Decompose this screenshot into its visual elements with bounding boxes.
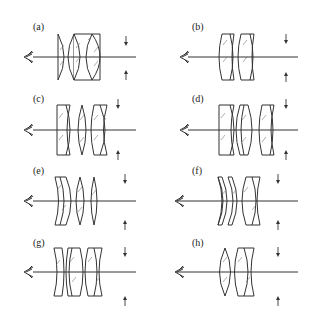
eye-icon: [24, 124, 33, 136]
panel-label-e: (e): [33, 165, 44, 177]
field-stop-arrow-up-icon: [276, 220, 280, 230]
panel-label-g: (g): [33, 237, 45, 249]
field-stop-arrow-up-icon: [124, 70, 128, 80]
eye-icon: [180, 51, 189, 63]
eye-icon: [180, 124, 189, 136]
eyepiece-diagram: (a) (b): [0, 0, 313, 321]
field-stop-arrow-down-icon: [124, 36, 128, 46]
panel-f: (f): [175, 165, 298, 230]
panel-label-f: (f): [192, 165, 202, 177]
field-stop-arrow-up-icon: [123, 296, 127, 306]
eye-icon: [24, 195, 33, 207]
panel-a: (a): [24, 21, 136, 80]
panel-label-d: (d): [192, 93, 204, 105]
field-stop-arrow-up-icon: [284, 150, 288, 160]
panel-label-h: (h): [192, 237, 204, 249]
field-stop-arrow-down-icon: [284, 99, 288, 109]
panel-d: (d): [180, 93, 298, 160]
panel-e: (e): [24, 165, 136, 230]
panel-label-a: (a): [33, 21, 44, 33]
panel-g: (g): [24, 237, 136, 306]
field-stop-arrow-down-icon: [276, 247, 280, 257]
field-stop-arrow-up-icon: [284, 72, 288, 82]
panel-h: (h): [175, 237, 298, 306]
panel-label-c: (c): [33, 93, 44, 105]
eye-icon: [24, 51, 33, 63]
eye-icon: [24, 266, 33, 278]
field-stop-arrow-down-icon: [116, 99, 120, 109]
panel-b: (b): [180, 21, 298, 82]
field-stop-arrow-up-icon: [116, 150, 120, 160]
field-stop-arrow-down-icon: [276, 174, 280, 184]
panel-label-b: (b): [192, 21, 204, 33]
field-stop-arrow-down-icon: [284, 34, 288, 44]
field-stop-arrow-up-icon: [276, 296, 280, 306]
field-stop-arrow-up-icon: [123, 220, 127, 230]
panel-c: (c): [24, 93, 136, 160]
field-stop-arrow-down-icon: [123, 247, 127, 257]
field-stop-arrow-down-icon: [123, 174, 127, 184]
